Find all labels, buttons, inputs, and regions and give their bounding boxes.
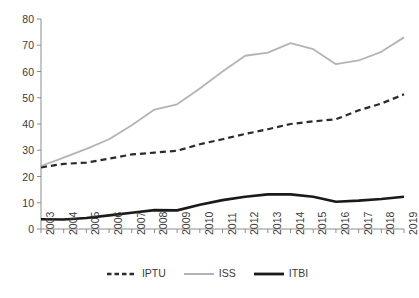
legend-label: IPTU — [142, 268, 166, 279]
y-tick-label: 40 — [10, 119, 34, 129]
x-tick-label: 2017 — [363, 212, 373, 235]
x-tick-label: 2004 — [68, 212, 78, 235]
legend-label: ISS — [219, 268, 236, 279]
legend-swatch-iss-icon — [184, 269, 214, 279]
y-tick-label: 50 — [10, 93, 34, 103]
series-line-iss — [41, 37, 404, 166]
x-tick-label: 2011 — [227, 212, 237, 235]
y-tick-label: 60 — [10, 67, 34, 77]
y-tick-label: 10 — [10, 198, 34, 208]
y-tick-label: 20 — [10, 172, 34, 182]
x-tick-label: 2012 — [249, 212, 259, 235]
axes-group — [41, 19, 404, 229]
chart-legend: IPTUISSITBI — [0, 268, 415, 279]
x-tick-label: 2006 — [113, 212, 123, 235]
legend-label: ITBI — [289, 268, 308, 279]
x-tick-label: 2005 — [90, 212, 100, 235]
y-tick-label: 30 — [10, 145, 34, 155]
x-tick-label: 2014 — [295, 212, 305, 235]
y-tick-label: 70 — [10, 40, 34, 50]
legend-swatch-itbi-icon — [254, 269, 284, 279]
y-tick-label: 0 — [10, 224, 34, 234]
x-tick-label: 2009 — [181, 212, 191, 235]
legend-swatch-iptu-icon — [107, 269, 137, 279]
x-tick-label: 2008 — [158, 212, 168, 235]
legend-item-iptu[interactable]: IPTU — [107, 268, 166, 279]
x-tick-label: 2018 — [385, 212, 395, 235]
x-tick-label: 2003 — [45, 212, 55, 235]
legend-item-iss[interactable]: ISS — [184, 268, 236, 279]
x-tick-label: 2007 — [136, 212, 146, 235]
x-tick-label: 2015 — [317, 212, 327, 235]
x-tick-label: 2019 — [408, 212, 418, 235]
series-line-iptu — [41, 94, 404, 167]
x-tick-label: 2010 — [204, 212, 214, 235]
legend-item-itbi[interactable]: ITBI — [254, 268, 308, 279]
y-tick-marks — [37, 19, 41, 229]
x-tick-label: 2013 — [272, 212, 282, 235]
data-series-group — [41, 37, 404, 219]
y-tick-label: 80 — [10, 14, 34, 24]
x-tick-label: 2016 — [340, 212, 350, 235]
